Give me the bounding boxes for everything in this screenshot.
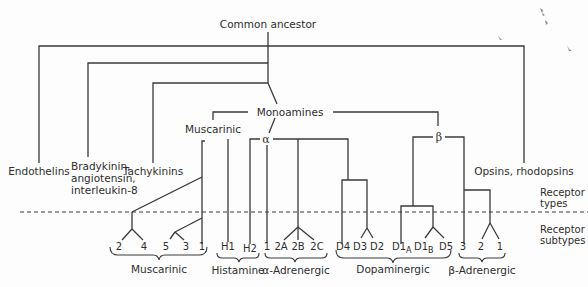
subtype-d2: D2 [370,241,384,252]
branch-h2 [250,139,260,244]
subtype-beta3: 3 [460,241,466,252]
branch-alpha [269,118,275,133]
branch-m4 [132,229,143,240]
bradykinin-label-1: Bradykinin, [71,160,130,172]
branch-d1b [425,227,433,238]
subtype-m4: 4 [141,241,147,252]
branch-d2 [367,228,373,238]
branch-bradykinin [88,63,268,157]
muscarinic-subtypes: 2 4 5 3 1 [116,241,205,252]
branch-d5 [433,227,444,238]
alpha-adrenergic-brace [265,253,327,262]
branch-monoamines [268,83,277,104]
branch-beta1 [490,223,499,239]
branch-m3 [175,232,184,240]
beta-label: β [436,131,442,144]
beta-adrenergic-subtypes: 3 2 1 [460,241,503,252]
subtype-beta2: 2 [478,241,484,252]
branch-beta2-beta1 [464,190,490,223]
endothelins-label: Endothelins [8,165,70,177]
receptor-types-label-1: Receptor [540,187,586,198]
group-dopaminergic: Dopaminergic [356,263,430,275]
branch-dopamine-d2-family [273,139,348,180]
scan-artifacts [498,8,572,51]
branch-2a [284,227,298,240]
group-muscarinic: Muscarinic [131,263,187,275]
branch-m2-m4 [132,177,202,212]
monoamines-label: Monoamines [257,106,324,118]
branch-d1-family [413,137,433,206]
subtype-d1a: D1A [392,241,412,255]
root-label: Common ancestor [220,18,317,30]
muscarinic-brace [110,247,207,260]
branch-muscarinic [202,141,205,244]
histamine-subtypes: H1 H2 [221,241,257,254]
muscarinic-type-label: Muscarinic [185,123,241,135]
branch-m5 [170,232,175,239]
opsins-label: Opsins, rhodopsins [474,165,574,177]
branch-beta2 [482,223,490,239]
subtype-m3: 3 [183,241,189,252]
receptor-phylogeny-diagram: Common ancestor Endothelins Bradykinin, … [0,0,588,287]
branch-m5-m3 [175,218,202,232]
branch-2c [298,227,314,240]
subtype-m2: 2 [116,241,122,252]
branch-m2 [122,229,132,240]
subtype-d4: D4 [336,241,350,252]
subtype-alpha1: 1 [264,241,270,252]
alpha-adrenergic-subtypes: 1 2A 2B 2C [264,241,324,252]
beta-adrenergic-brace [459,253,505,262]
subtype-alpha2b: 2B [291,241,304,252]
branch-beta-adrenergic [445,137,464,244]
tachykinins-label: Tachykinins [122,165,183,177]
subtype-d3: D3 [353,241,367,252]
group-beta-adrenergic: β-Adrenergic [448,264,516,276]
subtype-alpha2a: 2A [274,241,287,252]
branch-d3 [361,228,367,238]
phylogeny-tree: Common ancestor Endothelins Bradykinin, … [0,0,588,287]
subtype-h2: H2 [243,243,257,254]
subtype-h1: H1 [221,241,235,252]
subtype-d1b: D1B [414,241,434,255]
dopaminergic-subtypes: D4 D3 D2 D1A D1B D5 [336,241,453,255]
subtype-alpha2c: 2C [310,241,323,252]
subtype-m1: 1 [199,241,205,252]
receptor-subtypes-label-2: subtypes [540,235,585,246]
group-histamine: Histamine [211,264,264,276]
branch-beta [333,112,438,126]
receptor-subtypes-label-1: Receptor [540,224,586,235]
histamine-brace [217,253,259,262]
group-alpha-adrenergic: α-Adrenergic [262,264,330,276]
branch-muscarinic-type [213,112,248,120]
subtype-beta1: 1 [497,241,503,252]
subtype-m5: 5 [163,241,169,252]
alpha-label: α [262,133,270,146]
receptor-types-label-2: types [540,198,568,209]
bradykinin-label-3: interleukin-8 [71,184,138,196]
